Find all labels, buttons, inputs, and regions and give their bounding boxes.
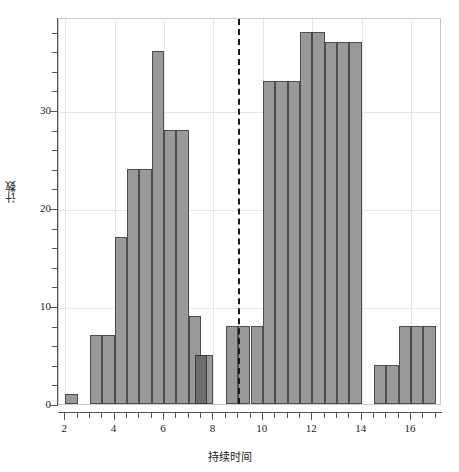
- histogram-bar: [349, 42, 361, 405]
- x-tick-2: [64, 413, 65, 420]
- y-tick-minor: [52, 72, 57, 73]
- histogram-bar: [65, 394, 77, 404]
- x-tick-minor: [287, 413, 288, 418]
- y-tick-minor: [52, 327, 57, 328]
- x-tick-minor: [299, 413, 300, 418]
- y-tick-minor: [52, 229, 57, 230]
- histogram-figure: 0102030 246810121416 计数 持续时间: [0, 0, 459, 472]
- y-tick-minor: [52, 268, 57, 269]
- reference-line-vertical: [238, 19, 240, 404]
- y-tick-minor: [52, 91, 57, 92]
- x-tick-minor: [225, 413, 226, 418]
- y-axis-line: [57, 18, 58, 406]
- plot-area: [58, 18, 441, 405]
- histogram-bar: [423, 326, 435, 404]
- x-tick-minor: [188, 413, 189, 418]
- x-tick-minor: [373, 413, 374, 418]
- gridline-y-30: [59, 112, 440, 113]
- histogram-bar: [139, 169, 151, 404]
- gridline-x-2: [65, 19, 66, 404]
- x-tick-label: 12: [291, 423, 331, 434]
- histogram-bar: [312, 32, 324, 404]
- histogram-bar: [325, 42, 337, 405]
- x-tick-8: [212, 413, 213, 420]
- x-tick-6: [163, 413, 164, 420]
- histogram-bar: [164, 130, 176, 404]
- y-tick-minor: [52, 366, 57, 367]
- histogram-bar: [195, 355, 207, 404]
- histogram-bar: [152, 51, 164, 404]
- x-tick-16: [410, 413, 411, 420]
- x-tick-minor: [250, 413, 251, 418]
- y-tick-label: 20: [11, 203, 51, 214]
- y-tick-label: 10: [11, 301, 51, 312]
- x-tick-minor: [151, 413, 152, 418]
- y-tick-minor: [52, 52, 57, 53]
- y-tick-minor: [52, 131, 57, 132]
- x-tick-label: 2: [44, 423, 84, 434]
- x-tick-minor: [385, 413, 386, 418]
- x-tick-minor: [101, 413, 102, 418]
- x-axis-title: 持续时间: [0, 448, 459, 464]
- x-tick-minor: [89, 413, 90, 418]
- histogram-bar: [399, 326, 411, 404]
- histogram-bar: [102, 335, 114, 404]
- x-tick-minor: [126, 413, 127, 418]
- y-tick-minor: [52, 189, 57, 190]
- histogram-bar: [411, 326, 423, 404]
- x-tick-minor: [200, 413, 201, 418]
- x-tick-12: [311, 413, 312, 420]
- y-tick-label: 0: [11, 399, 51, 410]
- x-tick-label: 8: [192, 423, 232, 434]
- x-tick-minor: [435, 413, 436, 418]
- histogram-bar: [226, 326, 238, 404]
- y-tick-minor: [52, 346, 57, 347]
- histogram-bar: [90, 335, 102, 404]
- histogram-bar: [127, 169, 139, 404]
- x-tick-minor: [175, 413, 176, 418]
- y-tick-0: [50, 405, 57, 406]
- gridline-x-14: [362, 19, 363, 404]
- x-tick-minor: [422, 413, 423, 418]
- y-tick-minor: [52, 170, 57, 171]
- gridline-x-8: [213, 19, 214, 404]
- y-axis-title: 计数: [4, 181, 20, 203]
- y-tick-minor: [52, 385, 57, 386]
- y-tick-20: [50, 209, 57, 210]
- y-tick-minor: [52, 150, 57, 151]
- x-tick-minor: [324, 413, 325, 418]
- histogram-bar: [288, 81, 300, 404]
- x-tick-label: 16: [390, 423, 430, 434]
- histogram-bar: [275, 81, 287, 404]
- x-tick-minor: [138, 413, 139, 418]
- histogram-bar: [300, 32, 312, 404]
- x-tick-label: 10: [242, 423, 282, 434]
- x-tick-minor: [348, 413, 349, 418]
- histogram-bar: [263, 81, 275, 404]
- y-tick-30: [50, 111, 57, 112]
- x-tick-minor: [398, 413, 399, 418]
- y-tick-10: [50, 307, 57, 308]
- histogram-bar: [251, 326, 263, 404]
- x-tick-label: 4: [94, 423, 134, 434]
- x-tick-minor: [77, 413, 78, 418]
- histogram-bar: [115, 237, 127, 404]
- x-tick-label: 14: [341, 423, 381, 434]
- x-tick-10: [262, 413, 263, 420]
- x-tick-label: 6: [143, 423, 183, 434]
- x-tick-minor: [237, 413, 238, 418]
- x-tick-minor: [336, 413, 337, 418]
- y-tick-minor: [52, 248, 57, 249]
- gridline-y-20: [59, 210, 440, 211]
- y-tick-minor: [52, 33, 57, 34]
- histogram-bar: [374, 365, 386, 404]
- histogram-bar: [386, 365, 398, 404]
- x-tick-14: [361, 413, 362, 420]
- x-tick-minor: [274, 413, 275, 418]
- y-tick-label: 30: [11, 105, 51, 116]
- histogram-bar: [176, 130, 188, 404]
- histogram-bar: [337, 42, 349, 405]
- x-tick-4: [114, 413, 115, 420]
- y-tick-minor: [52, 287, 57, 288]
